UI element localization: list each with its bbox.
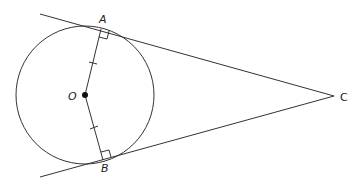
tangent-circle-diagram: A B O C	[0, 0, 362, 185]
radius-oa	[85, 29, 101, 95]
label-b: B	[101, 162, 109, 175]
center-point-o	[82, 92, 88, 98]
tangent-line-ac	[40, 14, 334, 96]
tangent-line-bc	[40, 96, 334, 177]
label-o: O	[68, 90, 77, 103]
label-a: A	[98, 13, 107, 26]
label-c: C	[340, 91, 348, 104]
right-angle-marker-b	[101, 150, 111, 157]
